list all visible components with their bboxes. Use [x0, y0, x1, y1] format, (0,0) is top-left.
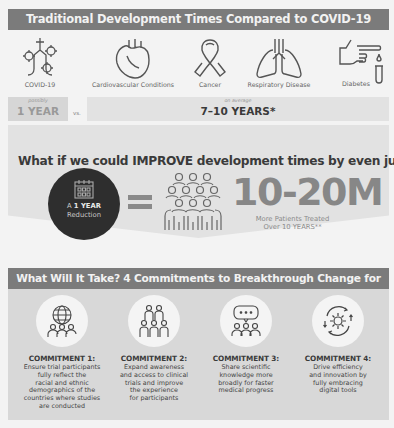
covid-timeline-box: possibly 1 YEAR: [8, 97, 68, 121]
disease-covid: COVID-19: [14, 36, 66, 88]
commitment-description-line: digital tools: [290, 387, 386, 395]
commitment-icon-ring: [36, 295, 88, 347]
traditional-duration: 7–10 YEARS*: [87, 104, 389, 118]
lungs-icon: [254, 36, 304, 80]
commitment-description: Ensure trial participantsfully reflect t…: [14, 364, 110, 411]
disease-label: Cardiovascular Conditions: [88, 81, 178, 88]
commitment-title: COMMITMENT 3:: [198, 354, 294, 363]
commitment-description-line: are conducted: [14, 403, 110, 411]
disease-cancer: Cancer: [188, 36, 232, 88]
traditional-timeline-box: on average 7–10 YEARS*: [87, 97, 389, 121]
reduction-line1: A 1 YEAR: [48, 202, 120, 211]
reduction-prefix: A: [67, 202, 74, 210]
patients-stat-value: 10-20M: [232, 170, 382, 214]
stat-caption-line1: More Patients Treated: [245, 215, 340, 223]
covid-duration: 1 YEAR: [8, 104, 68, 118]
commitment-2: COMMITMENT 2: Expand awarenessand access…: [106, 295, 202, 403]
commitment-icon-ring: [128, 295, 180, 347]
commitment-3: COMMITMENT 3: Share scientificknowledge …: [198, 295, 294, 395]
disease-icons-row: COVID-19 Cardiovascular Conditions Cance…: [0, 36, 394, 96]
bottom-banner-title: What Will It Take? 4 Commitments to Brea…: [8, 268, 389, 289]
commitment-title: COMMITMENT 2:: [106, 354, 202, 363]
covid-qualifier: possibly: [8, 97, 68, 104]
crowd-of-people-icon: [162, 172, 224, 232]
disease-label: Diabetes: [334, 80, 378, 87]
disease-label: COVID-19: [14, 81, 66, 88]
globe-people-icon: [45, 304, 79, 338]
commitment-description-line: medical progress: [198, 387, 294, 395]
commitment-icon-ring: [312, 295, 364, 347]
commitment-description: Share scientificknowledge morebroadly fo…: [198, 364, 294, 395]
disease-label: Respiratory Disease: [246, 81, 312, 88]
commitment-description: Drive efficiencyand innovation byfully e…: [290, 364, 386, 395]
patients-stat-caption: More Patients Treated Over 10 YEARS**: [245, 215, 340, 231]
commitment-icon-ring: [220, 295, 272, 347]
heart-icon: [111, 36, 155, 80]
commitment-4: COMMITMENT 4: Drive efficiencyand innova…: [290, 295, 386, 395]
reduction-line2: Reduction: [48, 211, 120, 219]
commitment-description: Expand awarenessand access to clinicaltr…: [106, 364, 202, 403]
commitment-1: COMMITMENT 1: Ensure trial participantsf…: [14, 295, 110, 411]
commitment-description-line: for participants: [106, 395, 202, 403]
cancer-ribbon-icon: [190, 36, 230, 80]
group-people-icon: [137, 304, 171, 338]
disease-label: Cancer: [188, 81, 232, 88]
improve-question-text: What if we could IMPROVE development tim…: [18, 154, 394, 168]
equals-icon: [128, 195, 152, 213]
one-year-reduction-badge: A 1 YEAR Reduction: [48, 168, 120, 240]
versus-label: vs.: [73, 110, 81, 116]
improve-question: What if we could IMPROVE development tim…: [18, 143, 394, 171]
reduction-emphasis: 1 YEAR: [74, 202, 101, 210]
traditional-qualifier: on average: [87, 97, 389, 104]
commitment-title: COMMITMENT 1:: [14, 354, 110, 363]
commitment-title: COMMITMENT 4:: [290, 354, 386, 363]
calendar-icon: [73, 178, 95, 200]
speech-bubble-people-icon: [229, 304, 263, 338]
disease-cardiovascular: Cardiovascular Conditions: [88, 36, 178, 88]
gear-cycle-icon: [321, 304, 355, 338]
finger-prick-test-tube-icon: [337, 36, 387, 84]
disease-diabetes: Diabetes: [334, 36, 390, 87]
disease-respiratory: Respiratory Disease: [246, 36, 312, 88]
stat-caption-line2: Over 10 YEARS**: [245, 223, 340, 231]
top-banner-title: Traditional Development Times Compared t…: [8, 9, 389, 30]
covid-lungs-virus-icon: [18, 36, 62, 80]
